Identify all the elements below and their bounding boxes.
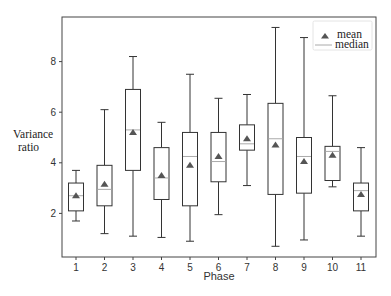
y-axis-label-line2: ratio — [18, 141, 39, 153]
x-tick-label: 2 — [102, 262, 108, 273]
x-tick-label: 10 — [327, 262, 339, 273]
y-tick-label: 6 — [50, 107, 56, 118]
box-phase-5 — [183, 74, 198, 241]
x-tick-label: 11 — [356, 262, 367, 273]
x-tick-label: 9 — [301, 262, 307, 273]
y-tick-label: 8 — [50, 56, 56, 67]
box-series — [69, 27, 369, 246]
x-tick-label: 3 — [130, 262, 136, 273]
box-phase-11 — [354, 148, 369, 237]
x-axis-label: Phase — [203, 270, 234, 282]
x-tick-label: 7 — [244, 262, 250, 273]
legend-median-label: median — [335, 38, 369, 50]
x-tick-label: 5 — [187, 262, 193, 273]
box-phase-1 — [69, 170, 84, 221]
y-axis-label-line1: Variance — [13, 128, 53, 140]
y-tick-label: 4 — [50, 157, 56, 168]
box-phase-10 — [325, 96, 340, 187]
iqr-box — [183, 132, 198, 205]
box-phase-8 — [268, 27, 283, 246]
x-tick-label: 1 — [73, 262, 79, 273]
legend: mean median — [313, 21, 372, 50]
box-phase-7 — [240, 94, 255, 185]
box-phase-3 — [126, 57, 141, 237]
iqr-box — [297, 138, 312, 194]
box-plot-chart: 2468 1234567891011 Variance ratio Phase … — [0, 0, 391, 296]
x-tick-label: 8 — [273, 262, 279, 273]
iqr-box — [268, 103, 283, 194]
box-phase-9 — [297, 38, 312, 240]
iqr-box — [354, 183, 369, 211]
box-phase-4 — [154, 122, 169, 237]
x-tick-label: 4 — [159, 262, 165, 273]
box-phase-2 — [97, 110, 112, 234]
box-phase-6 — [211, 98, 226, 214]
y-tick-label: 2 — [50, 208, 56, 219]
